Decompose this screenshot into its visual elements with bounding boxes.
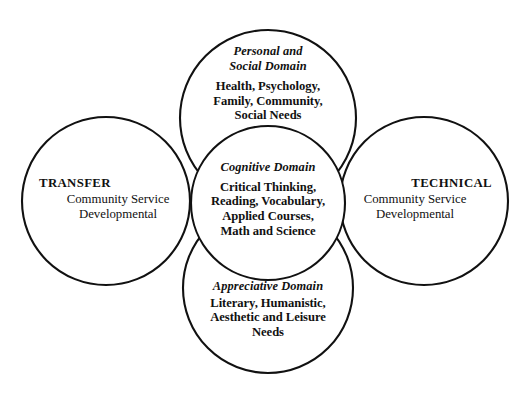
label-personal-social-domain: Personal and Social Domain Health, Psych… [178,44,358,123]
personal-social-body-line-1: Health, Psychology, [178,79,358,94]
appreciative-body-line-2: Aesthetic and Leisure [178,310,358,325]
technical-track-line-2: Developmental [344,207,506,222]
appreciative-domain-heading: Appreciative Domain [178,279,358,294]
label-transfer-track: TRANSFER Community Service Developmental [26,176,188,222]
transfer-track-line-1: Community Service [26,192,188,207]
transfer-track-heading: TRANSFER [26,176,188,191]
cognitive-heading-line-1: Cognitive Domain [183,160,353,175]
personal-social-body-line-2: Family, Community, [178,94,358,109]
cognitive-domain-heading: Cognitive Domain [183,160,353,175]
transfer-track-line-2: Developmental [26,207,188,222]
appreciative-body-line-3: Needs [178,325,358,340]
personal-social-domain-heading: Personal and Social Domain [178,44,358,73]
appreciative-domain-body: Literary, Humanistic, Aesthetic and Leis… [178,296,358,340]
appreciative-body-line-1: Literary, Humanistic, [178,296,358,311]
personal-social-domain-body: Health, Psychology, Family, Community, S… [178,79,358,123]
cognitive-domain-body: Critical Thinking, Reading, Vocabulary, … [183,180,353,239]
cognitive-body-line-2: Reading, Vocabulary, [183,194,353,209]
cognitive-body-line-3: Applied Courses, [183,209,353,224]
appreciative-heading-line-1: Appreciative Domain [178,279,358,294]
venn-diagram: Personal and Social Domain Health, Psych… [0,0,532,398]
label-technical-track: TECHNICAL Community Service Developmenta… [344,176,506,222]
technical-track-heading: TECHNICAL [344,176,506,191]
label-appreciative-domain: Appreciative Domain Literary, Humanistic… [178,279,358,340]
personal-social-body-line-3: Social Needs [178,108,358,123]
personal-social-heading-line-2: Social Domain [178,59,358,74]
cognitive-body-line-1: Critical Thinking, [183,180,353,195]
label-cognitive-domain: Cognitive Domain Critical Thinking, Read… [183,160,353,238]
cognitive-body-line-4: Math and Science [183,224,353,239]
technical-track-line-1: Community Service [344,192,506,207]
personal-social-heading-line-1: Personal and [178,44,358,59]
